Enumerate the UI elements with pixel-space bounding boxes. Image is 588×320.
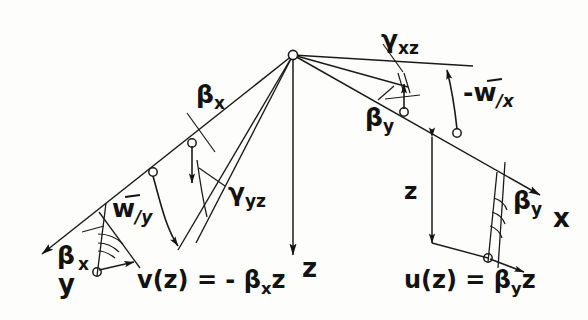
gamma-xz-sub: xz bbox=[398, 38, 419, 58]
equation-v-of-z: v(z) = - βxz bbox=[137, 268, 285, 297]
axis-label-z: z bbox=[302, 255, 317, 281]
dimension-label-z: z bbox=[404, 180, 417, 203]
v-equation-text: v(z) = - β bbox=[137, 266, 261, 294]
gamma-xz-arc-2 bbox=[404, 73, 410, 93]
beam-deformation-diagram: y z x βx γyz βx γxz βy βy w/y -w/x z v(z… bbox=[0, 0, 588, 320]
beta-y-arc-1 bbox=[494, 198, 507, 210]
displacement-label-w-prime-x: -w/x bbox=[463, 80, 514, 110]
beta-y-lower-sub: y bbox=[531, 199, 542, 219]
beta-x-lower-sub: x bbox=[78, 254, 89, 274]
angle-label-beta-y-upper: βy bbox=[365, 105, 394, 135]
beta-y-upper-sub: y bbox=[383, 116, 394, 136]
angle-label-gamma-yz: γyz bbox=[228, 180, 266, 210]
w-prime-x-base: w bbox=[473, 80, 496, 105]
left-vertical-reference bbox=[97, 203, 106, 276]
left-node-lower bbox=[149, 168, 157, 176]
u-equation-sub: y bbox=[511, 279, 522, 298]
beta-y-upper-base: β bbox=[365, 103, 383, 132]
beta-y-lower-base: β bbox=[513, 186, 531, 215]
beta-x-upper-sub: x bbox=[214, 93, 225, 113]
gamma-yz-sub: yz bbox=[245, 191, 266, 211]
beta-x-upper-base: β bbox=[196, 80, 214, 109]
beta-y-tick bbox=[385, 95, 420, 99]
u-equation-text: u(z) = β bbox=[404, 266, 511, 294]
w-prime-y-base: w bbox=[112, 196, 135, 221]
w-prime-x-prefix: - bbox=[463, 78, 473, 107]
angle-label-beta-x-lower: βx bbox=[57, 243, 89, 273]
left-curved-arrow bbox=[153, 176, 178, 246]
equation-u-of-z: u(z) = βyz bbox=[404, 268, 536, 297]
angle-label-gamma-xz: γxz bbox=[381, 27, 419, 57]
beta-x-lower-leader bbox=[82, 226, 104, 232]
right-shear-line bbox=[293, 55, 408, 87]
right-displacement-arrows bbox=[385, 70, 457, 129]
v-equation-tail: z bbox=[271, 266, 285, 294]
right-node-upper bbox=[400, 108, 408, 116]
gamma-yz-base: γ bbox=[228, 178, 245, 207]
z-dimension-group bbox=[432, 133, 488, 258]
gamma-xz-base: γ bbox=[381, 25, 398, 54]
angle-label-beta-x-upper: βx bbox=[196, 82, 225, 112]
axis-label-x: x bbox=[553, 205, 570, 231]
left-displacement-arrows bbox=[153, 146, 207, 246]
beta-y-arc-2 bbox=[492, 212, 505, 224]
right-tilt-line bbox=[488, 172, 497, 262]
displacement-label-w-prime-y: w/y bbox=[112, 196, 152, 226]
beta-x-lower-base: β bbox=[57, 241, 75, 270]
v-equation-sub: x bbox=[261, 279, 272, 298]
left-v-arrow bbox=[99, 262, 134, 270]
axis-label-y: y bbox=[58, 271, 75, 297]
w-prime-x-sub: /x bbox=[497, 91, 514, 111]
w-prime-y-sub: /y bbox=[135, 207, 152, 227]
left-node-upper bbox=[188, 139, 196, 147]
angle-label-beta-y-lower: βy bbox=[513, 188, 542, 218]
gamma-xz-arc-1 bbox=[398, 73, 404, 93]
origin-node bbox=[288, 50, 297, 59]
z-dimension-base bbox=[432, 243, 488, 258]
u-equation-tail: z bbox=[522, 266, 536, 294]
x-axis-line bbox=[293, 55, 540, 195]
right-curved-arrow bbox=[447, 70, 457, 129]
